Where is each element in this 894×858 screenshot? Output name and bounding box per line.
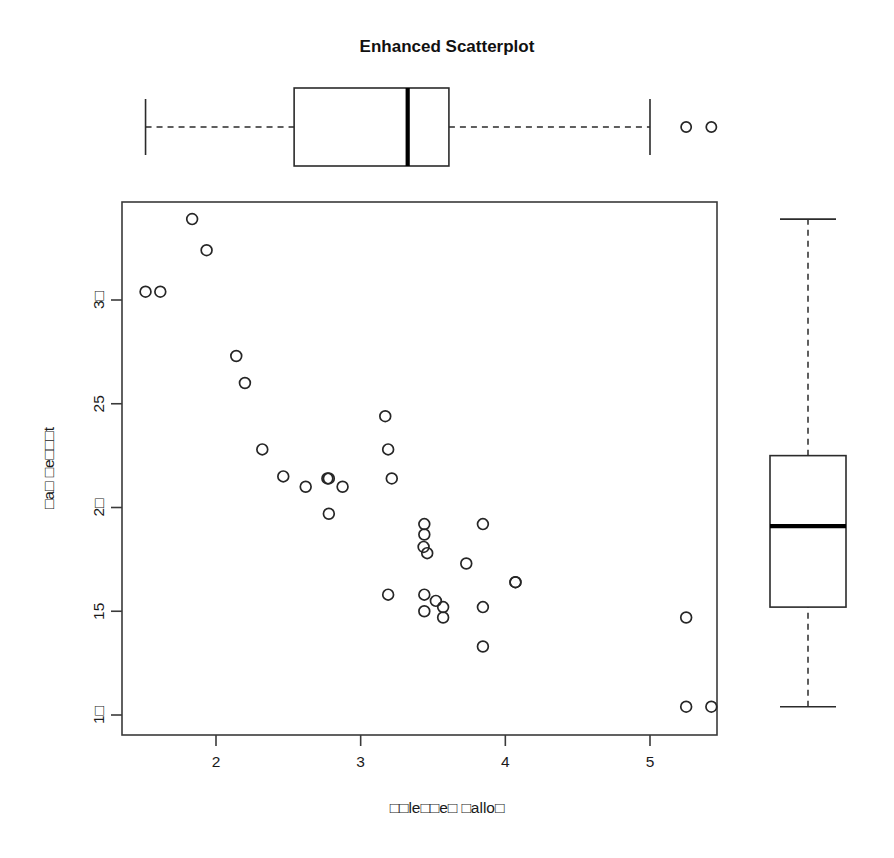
x-tick-label: 2 [212,753,221,770]
x-tick-label: 3 [356,753,365,770]
y-tick-label: 3□ [90,290,107,309]
x-axis-label: □□le□□e□ □allo□ [390,799,505,816]
chart-title: Enhanced Scatterplot [360,37,535,56]
y-tick-label: 1□ [90,705,107,724]
plot-canvas: Enhanced Scatterplot 2345 1□152□253□ □□l… [0,0,894,858]
y-axis-label: □a□ □e□□□t [40,426,57,509]
scatterplot-figure: Enhanced Scatterplot 2345 1□152□253□ □□l… [0,0,894,858]
top-box-iqr [294,88,449,166]
y-tick-label: 25 [90,395,107,412]
x-tick-label: 4 [501,753,510,770]
y-tick-label: 15 [90,603,107,620]
y-tick-label: 2□ [90,498,107,517]
x-tick-label: 5 [646,753,655,770]
right-box-iqr [770,456,846,607]
